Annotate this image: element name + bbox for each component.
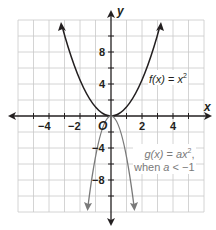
- g-label-lhs: g(x): [144, 148, 163, 160]
- g-label-rhs: ax: [176, 148, 188, 160]
- g-label-eq: =: [163, 148, 176, 160]
- y-tick-8: 8: [99, 46, 105, 58]
- axes: [12, 14, 208, 222]
- x-tick-2: 2: [139, 120, 145, 132]
- y-tick-4: 4: [99, 78, 105, 90]
- y-axis-label: y: [117, 4, 124, 18]
- axis-arrows: [8, 10, 212, 226]
- g-label-when: when: [134, 161, 163, 173]
- f-label-lhs: f(x): [149, 73, 165, 85]
- y-tick-neg8: −8: [92, 174, 105, 186]
- x-tick-4: 4: [170, 120, 176, 132]
- x-axis-label: x: [204, 100, 211, 114]
- coordinate-plane: [0, 0, 216, 230]
- origin-label: O: [98, 119, 107, 133]
- g-label-comma: ,: [192, 148, 195, 160]
- x-tick-neg4: −4: [38, 120, 51, 132]
- f-function-label: f(x) = x2: [148, 70, 188, 85]
- x-tick-neg2: −2: [68, 120, 81, 132]
- g-label-condition: < −1: [169, 161, 194, 173]
- y-tick-neg4: −4: [92, 142, 105, 154]
- f-label-exponent: 2: [183, 72, 187, 79]
- g-function-label: g(x) = ax2, when a < −1: [133, 144, 196, 174]
- f-label-eq: =: [165, 73, 178, 85]
